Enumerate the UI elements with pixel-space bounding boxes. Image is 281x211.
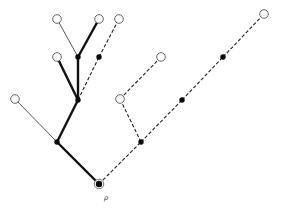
open-node-L <box>157 53 166 62</box>
edge-dashed-D-G <box>78 57 99 100</box>
open-node-E <box>53 53 62 62</box>
open-node-I <box>95 15 104 24</box>
tree-edges <box>15 14 264 184</box>
open-node-J <box>115 15 124 24</box>
filled-node-F <box>75 54 80 59</box>
open-node-H <box>53 15 62 24</box>
edge-thick-root-A <box>57 142 99 184</box>
edge-dashed-B-M <box>141 100 182 142</box>
edge-thin-F-H <box>57 19 78 57</box>
filled-node-B <box>138 139 143 144</box>
filled-node-G <box>96 54 101 59</box>
tree-nodes <box>11 10 269 189</box>
open-node-K <box>116 95 125 104</box>
filled-node-A <box>54 139 59 144</box>
edge-dashed-K-L <box>120 57 161 99</box>
open-node-C <box>11 95 20 104</box>
filled-node-D <box>75 97 80 102</box>
root-label: ρ <box>103 194 109 202</box>
root-node <box>96 181 102 187</box>
edge-thick-D-E <box>57 57 78 100</box>
edge-dashed-B-K <box>120 99 141 142</box>
edge-thin-A-C <box>15 99 57 142</box>
open-node-O <box>260 10 269 19</box>
edge-thick-F-I <box>78 19 99 57</box>
edge-dashed-G-J <box>99 19 119 57</box>
filled-node-M <box>179 97 184 102</box>
tree-diagram: ρ <box>0 0 281 211</box>
edge-dashed-root-B <box>99 142 141 184</box>
edge-dashed-M-N <box>182 57 223 100</box>
edge-thick-A-D <box>57 100 78 142</box>
edge-dashed-N-O <box>223 14 264 57</box>
filled-node-N <box>220 54 225 59</box>
